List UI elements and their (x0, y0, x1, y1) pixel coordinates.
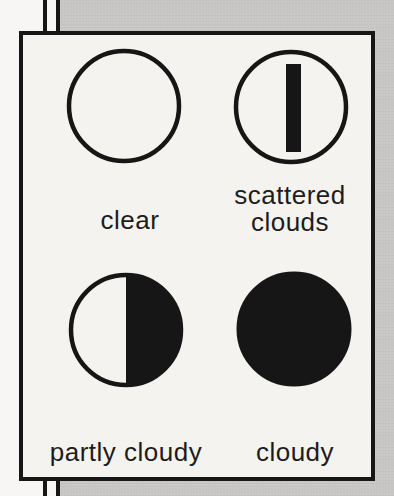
legend-item-label: cloudy (200, 439, 390, 466)
legend-item-label: scattered clouds (215, 182, 365, 236)
legend-item-cloudy: cloudy (200, 271, 390, 471)
partly-cloudy-symbol (68, 272, 184, 388)
legend-item-clear: clear (40, 48, 220, 238)
legend-item-partly-cloudy: partly cloudy (31, 272, 221, 472)
legend-item-scattered-clouds: scattered clouds (215, 49, 365, 244)
scanned-page-background: clear scattered clouds partly cloudy clo… (0, 0, 394, 496)
clear-symbol (66, 48, 182, 164)
cloudy-symbol (236, 271, 352, 387)
legend-panel: clear scattered clouds partly cloudy clo… (19, 31, 375, 481)
scattered-clouds-symbol (233, 49, 349, 165)
legend-item-label: partly cloudy (31, 439, 221, 466)
legend-item-label: clear (40, 207, 220, 234)
